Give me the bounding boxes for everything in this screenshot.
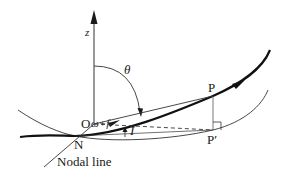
theta-label: θ (124, 63, 130, 76)
node-label: N (74, 138, 83, 151)
argument-label: ω+f (91, 118, 109, 129)
omega-f-arrowhead-icon (108, 120, 120, 127)
line-n-p-prime (75, 130, 213, 136)
origin-label: O (81, 117, 90, 130)
z-axis-arrowhead-icon (91, 10, 98, 24)
reference-plane-curve (18, 90, 268, 140)
orbit-curve (20, 50, 270, 137)
orbit-direction-arrow-icon (232, 80, 245, 89)
line-o-p-prime (94, 124, 213, 130)
z-axis-label: z (85, 27, 89, 38)
point-p-prime-label: P′ (207, 133, 217, 146)
nodal-line-label: Nodal line (57, 155, 112, 168)
inclination-label: I (130, 124, 134, 137)
theta-arc (94, 66, 140, 112)
orbit-diagram (0, 0, 288, 178)
point-p-label: P (208, 81, 215, 94)
